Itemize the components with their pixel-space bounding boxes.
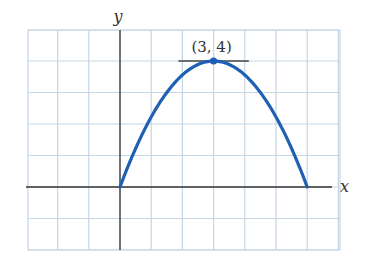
vertex-label: (3, 4)	[191, 38, 231, 56]
y-axis-label: y	[112, 7, 123, 26]
vertex-point	[210, 57, 217, 64]
grid	[28, 30, 340, 250]
parabola-graph: (3, 4) x y	[0, 0, 369, 270]
x-axis-label: x	[340, 177, 349, 196]
